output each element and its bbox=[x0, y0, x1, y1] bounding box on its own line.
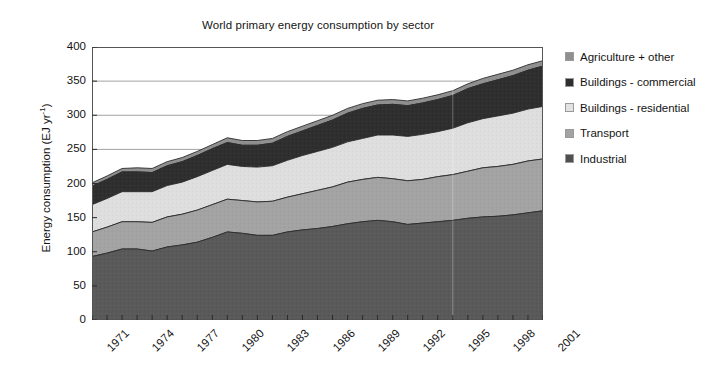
x-axis-tick-label: 1983 bbox=[285, 327, 312, 354]
x-axis-tick-label: 1995 bbox=[465, 327, 492, 354]
x-axis-tick-label: 1989 bbox=[375, 327, 402, 354]
legend-swatch-icon bbox=[565, 103, 574, 112]
x-axis-tick-label: 2001 bbox=[555, 327, 582, 354]
legend-label: Buildings - residential bbox=[580, 102, 689, 114]
legend-item[interactable]: Buildings - commercial bbox=[565, 70, 727, 96]
x-axis-tick-label: 1971 bbox=[104, 327, 131, 354]
legend-label: Buildings - commercial bbox=[580, 76, 696, 88]
legend-item[interactable]: Buildings - residential bbox=[565, 95, 727, 121]
legend-swatch-icon bbox=[565, 78, 574, 87]
legend-item[interactable]: Industrial bbox=[565, 146, 727, 172]
legend-item[interactable]: Agriculture + other bbox=[565, 44, 727, 70]
legend-swatch-icon bbox=[565, 154, 574, 163]
legend-label: Agriculture + other bbox=[580, 51, 674, 63]
legend-swatch-icon bbox=[565, 129, 574, 138]
x-axis-tick-label: 1977 bbox=[195, 327, 222, 354]
x-axis-tick-label: 1986 bbox=[330, 327, 357, 354]
legend-label: Industrial bbox=[580, 153, 627, 165]
chart-legend: Agriculture + otherBuildings - commercia… bbox=[565, 44, 727, 172]
x-axis-tick-label: 1974 bbox=[150, 327, 177, 354]
legend-label: Transport bbox=[580, 127, 629, 139]
x-axis-tick-label: 1998 bbox=[510, 327, 537, 354]
legend-item[interactable]: Transport bbox=[565, 121, 727, 147]
legend-swatch-icon bbox=[565, 52, 574, 61]
chart-figure: World primary energy consumption by sect… bbox=[0, 0, 727, 371]
x-axis-tick-label: 1980 bbox=[240, 327, 267, 354]
x-axis-tick-label: 1992 bbox=[420, 327, 447, 354]
